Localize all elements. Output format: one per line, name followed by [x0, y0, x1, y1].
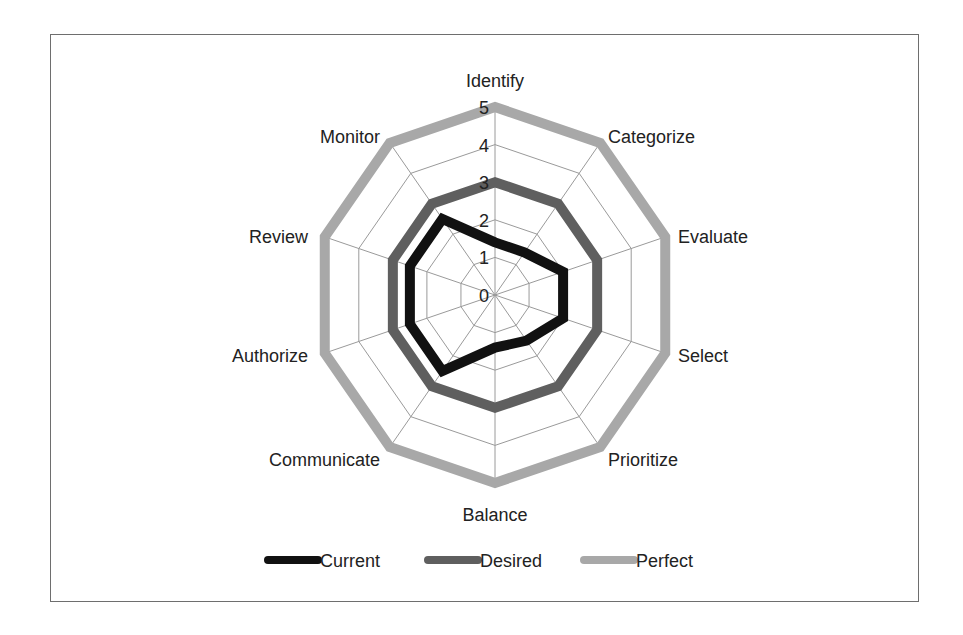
axis-label-authorize: Authorize [232, 346, 308, 366]
grid-spoke [495, 295, 600, 447]
axis-label-balance: Balance [462, 505, 527, 525]
grid-spoke [495, 237, 665, 295]
legend-label-desired: Desired [480, 551, 542, 571]
axis-label-identify: Identify [466, 71, 524, 91]
axis-label-select: Select [678, 346, 728, 366]
legend-label-perfect: Perfect [636, 551, 693, 571]
tick-label: 1 [479, 248, 489, 268]
tick-label: 2 [479, 211, 489, 231]
axis-label-communicate: Communicate [269, 450, 380, 470]
tick-label: 0 [479, 286, 489, 306]
tick-label: 5 [479, 98, 489, 118]
axis-label-prioritize: Prioritize [608, 450, 678, 470]
legend-label-current: Current [320, 551, 380, 571]
axis-labels: IdentifyCategorizeEvaluateSelectPrioriti… [232, 71, 748, 525]
axis-label-review: Review [249, 227, 309, 247]
radar-chart: 012345 IdentifyCategorizeEvaluateSelectP… [0, 0, 963, 635]
chart-legend: CurrentDesiredPerfect [268, 551, 693, 571]
tick-label: 4 [479, 136, 489, 156]
axis-label-monitor: Monitor [320, 127, 380, 147]
grid-spoke [495, 143, 600, 295]
axis-label-evaluate: Evaluate [678, 227, 748, 247]
axis-label-categorize: Categorize [608, 127, 695, 147]
tick-label: 3 [479, 173, 489, 193]
